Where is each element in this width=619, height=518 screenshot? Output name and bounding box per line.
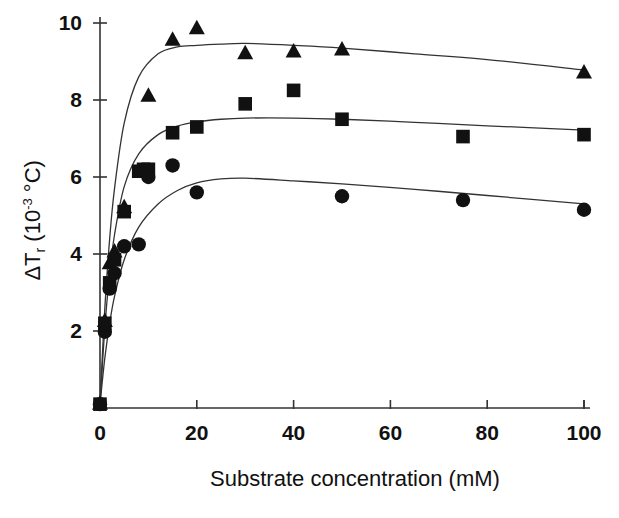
y-axis-title-subscript: r [32, 248, 48, 253]
marker-circle [165, 158, 179, 172]
x-tick-label: 60 [360, 422, 420, 443]
x-tick-label: 80 [457, 422, 517, 443]
y-axis-title-prefix: ΔT [20, 252, 45, 280]
marker-triangle [189, 20, 205, 35]
marker-square [577, 128, 591, 142]
x-tick-label: 100 [554, 422, 614, 443]
y-tick-label: 2 [42, 320, 82, 341]
marker-triangle [165, 31, 181, 46]
marker-square [456, 130, 470, 144]
x-axis-title: Substrate concentration (mM) [120, 466, 590, 492]
marker-square [287, 84, 301, 98]
x-tick-label: 40 [264, 422, 324, 443]
marker-square [108, 253, 122, 267]
fit-curve-triangle [100, 43, 584, 404]
fit-curve-circle [100, 178, 584, 404]
marker-triangle [237, 45, 253, 60]
y-axis-title-exponent: -3 [20, 198, 35, 210]
marker-square [238, 97, 252, 111]
y-tick-label: 8 [42, 89, 82, 110]
y-axis-title-suffix: °C) [20, 160, 45, 198]
marker-circle [456, 193, 470, 207]
marker-circle [335, 189, 349, 203]
marker-circle [190, 185, 204, 199]
marker-circle [93, 397, 107, 411]
marker-square [190, 120, 204, 134]
marker-square [117, 205, 131, 219]
y-axis-title-middle: (10 [20, 210, 45, 248]
axis-ticks [93, 23, 584, 409]
fit-curves [100, 43, 584, 404]
marker-circle [98, 325, 112, 339]
marker-triangle [576, 64, 592, 79]
marker-square [335, 112, 349, 126]
marker-square [166, 126, 180, 140]
marker-circle [577, 203, 591, 217]
x-tick-label: 0 [70, 422, 130, 443]
marker-circle [132, 237, 146, 251]
marker-triangle [140, 87, 156, 102]
y-axis-title: ΔTr (10-3 °C) [20, 120, 49, 320]
chart-figure: 246810 020406080100 Substrate concentrat… [0, 0, 619, 518]
y-tick-label: 10 [42, 12, 82, 33]
marker-circle [107, 266, 121, 280]
marker-circle [102, 281, 116, 295]
x-tick-label: 20 [167, 422, 227, 443]
axis-lines [100, 17, 590, 408]
marker-circle [117, 239, 131, 253]
marker-circle [141, 170, 155, 184]
data-markers [92, 20, 592, 412]
